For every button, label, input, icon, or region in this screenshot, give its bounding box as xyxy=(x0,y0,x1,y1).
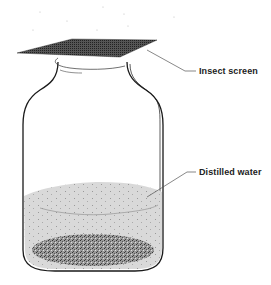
insect-screen xyxy=(17,39,157,57)
sediment xyxy=(32,234,154,266)
jar-diagram xyxy=(0,0,271,285)
insect-screen-leader xyxy=(147,50,196,71)
insect-screen-label: Insect screen xyxy=(199,66,258,76)
distilled-water-label: Distilled water xyxy=(199,167,262,177)
